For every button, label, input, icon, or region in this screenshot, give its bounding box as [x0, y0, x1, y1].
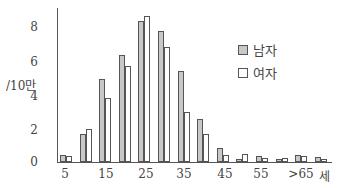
y-tick: 0	[24, 155, 38, 169]
legend-label: 여자	[253, 63, 277, 82]
legend-swatch-icon	[238, 45, 248, 55]
x-tick: 45	[217, 167, 232, 181]
y-tick: 2	[24, 123, 38, 137]
x-unit-label: 세	[319, 167, 330, 184]
bar-female	[242, 154, 248, 162]
y-axis	[57, 8, 58, 163]
bar-female	[203, 134, 209, 162]
x-axis	[57, 162, 332, 163]
x-tick: >65	[288, 167, 313, 181]
bar-female	[223, 155, 229, 162]
bar-female	[86, 129, 92, 162]
bar-female	[184, 112, 190, 162]
x-tick: 35	[176, 167, 191, 181]
bar-female	[66, 156, 72, 162]
bar-female	[125, 66, 131, 162]
legend-item-female: 여자	[238, 63, 277, 82]
bar-female	[301, 156, 307, 162]
x-tick: 15	[98, 167, 113, 181]
bar-female	[164, 47, 170, 162]
bar-female	[144, 16, 150, 162]
legend-label: 남자	[253, 40, 277, 59]
bar-chart: /10만 0 2 4 6 8 5 15 25 35 45 55 >65 세 남자…	[0, 0, 338, 188]
bar-female	[282, 158, 288, 162]
bar-female	[105, 98, 111, 162]
x-tick: 55	[253, 167, 268, 181]
bar-female	[262, 158, 268, 162]
bar-female	[321, 159, 327, 162]
y-tick: 4	[24, 89, 38, 103]
y-tick: 6	[24, 55, 38, 69]
x-tick: 5	[61, 167, 69, 181]
x-tick: 25	[138, 167, 153, 181]
legend: 남자 여자	[238, 40, 277, 86]
legend-item-male: 남자	[238, 40, 277, 59]
legend-swatch-icon	[238, 68, 248, 78]
y-tick: 8	[24, 20, 38, 34]
